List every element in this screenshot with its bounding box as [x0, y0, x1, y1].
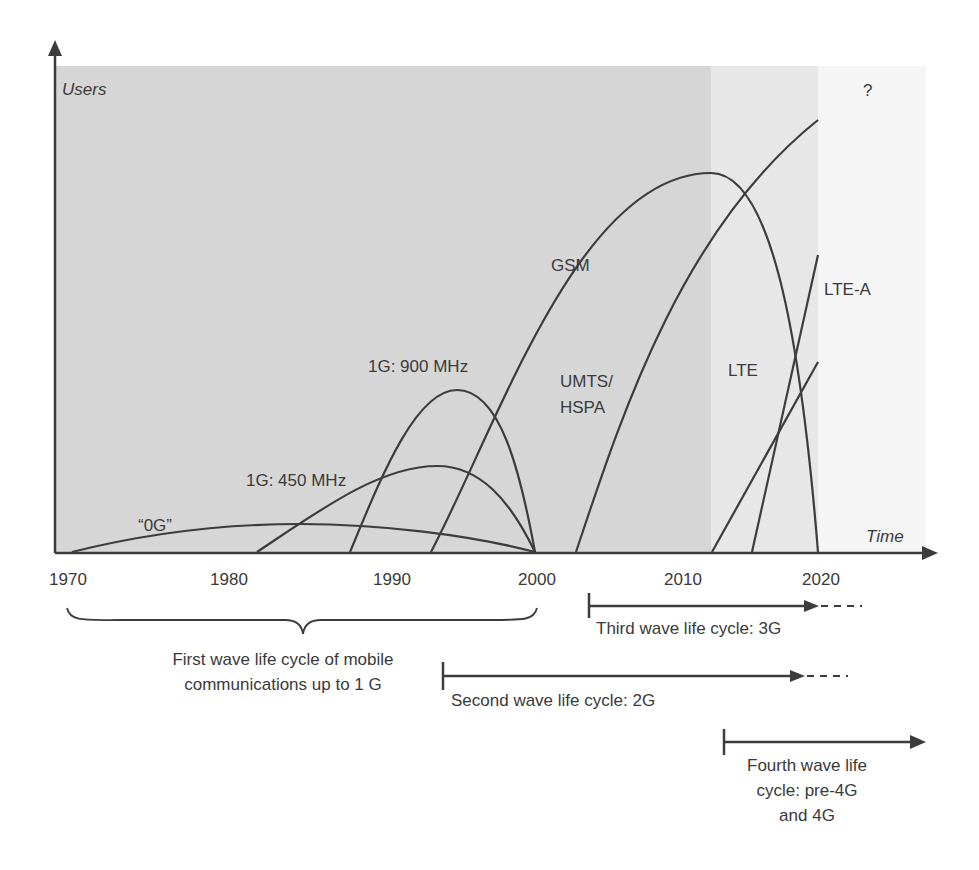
label-umts-line1: UMTS/ [560, 372, 613, 391]
y-axis-label: Users [62, 80, 107, 99]
fourth-wave-label-line2: cycle: pre-4G [756, 781, 857, 800]
fourth-wave-label-line3: and 4G [779, 806, 835, 825]
x-axis-label: Time [866, 527, 904, 546]
label-1g-450: 1G: 450 MHz [246, 471, 346, 490]
third-wave-arrow-icon [804, 600, 819, 612]
era-region-past [55, 66, 711, 553]
mobile-generations-diagram: Users Time ? 1970 1980 1990 2000 2010 20… [0, 0, 979, 870]
x-tick-1990: 1990 [373, 570, 411, 589]
unknown-future-marker: ? [863, 81, 872, 100]
x-tick-2020: 2020 [802, 570, 840, 589]
x-tick-2010: 2010 [664, 570, 702, 589]
label-gsm: GSM [551, 256, 590, 275]
fourth-wave-arrow-icon [910, 735, 926, 749]
x-tick-1980: 1980 [210, 570, 248, 589]
label-umts-line2: HSPA [560, 398, 606, 417]
first-wave-label-line1: First wave life cycle of mobile [172, 650, 393, 669]
x-tick-1970: 1970 [49, 570, 87, 589]
label-0g: “0G” [138, 516, 172, 535]
fourth-wave-label-line1: Fourth wave life [747, 756, 867, 775]
second-wave-label: Second wave life cycle: 2G [451, 691, 655, 710]
first-wave-brace [67, 608, 537, 634]
era-region-future [818, 66, 926, 553]
label-lte: LTE [728, 361, 758, 380]
era-region-current [711, 66, 818, 553]
first-wave-label-line2: communications up to 1 G [184, 675, 381, 694]
x-axis-arrow-icon [922, 546, 938, 560]
third-wave-label: Third wave life cycle: 3G [596, 619, 781, 638]
y-axis-arrow-icon [48, 40, 62, 56]
label-1g-900: 1G: 900 MHz [368, 357, 468, 376]
second-wave-arrow-icon [790, 670, 805, 682]
x-tick-2000: 2000 [518, 570, 556, 589]
label-lte-a: LTE-A [824, 280, 872, 299]
